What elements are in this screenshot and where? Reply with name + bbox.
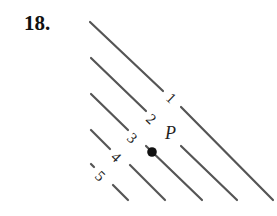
- level-label-3: 3: [124, 130, 141, 147]
- level-curve-diagram: 1 2 3 4 5 P: [0, 0, 277, 216]
- level-label-2: 2: [143, 111, 160, 128]
- level-curve-1: 1: [90, 22, 273, 200]
- point-p-marker: [147, 147, 157, 157]
- level-label-4: 4: [108, 149, 125, 166]
- level-curve-5: 5: [91, 164, 128, 200]
- level-curve-2: 2: [91, 58, 237, 200]
- point-p-label: P: [164, 123, 176, 143]
- level-label-1: 1: [163, 90, 180, 107]
- level-label-5: 5: [92, 168, 109, 185]
